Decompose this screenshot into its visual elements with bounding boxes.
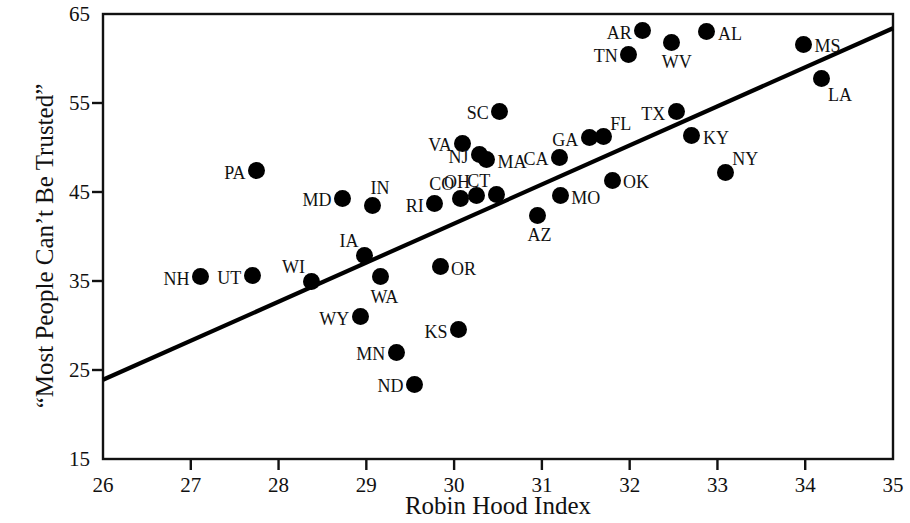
data-point-label: MD [303,191,332,209]
data-point-marker[interactable] [813,70,830,87]
data-point-label: AZ [528,226,552,244]
data-point-marker[interactable] [372,268,389,285]
data-point-marker[interactable] [364,197,381,214]
data-point-marker[interactable] [620,46,637,63]
data-point-marker[interactable] [356,247,373,264]
data-point-label: NY [732,150,758,168]
data-point-label: MS [814,37,840,55]
data-point-marker[interactable] [334,190,351,207]
data-point-label: AL [718,25,742,43]
data-point-label: OK [623,173,649,191]
data-point-marker[interactable] [406,376,423,393]
data-point-label: KS [424,323,447,341]
data-point-marker[interactable] [352,308,369,325]
data-point-label: OH [444,173,470,191]
data-point-label: TN [594,47,618,65]
data-point-label: UT [217,269,241,287]
scatter-chart-figure: 152535455565 26272829303132333435 NHUTPA… [0,0,910,523]
data-point-label: GA [552,131,578,149]
data-point-marker[interactable] [604,172,621,189]
data-point-label: TX [641,105,665,123]
data-point-marker[interactable] [432,258,449,275]
data-point-marker[interactable] [244,267,261,284]
data-point-marker[interactable] [488,186,505,203]
data-point-label: LA [828,86,852,104]
data-point-label: AR [607,24,632,42]
data-point-label: KY [703,129,729,147]
data-point-label: MA [498,153,527,171]
y-tick-label: 65 [40,4,90,25]
data-point-marker[interactable] [717,164,734,181]
data-point-marker[interactable] [551,149,568,166]
data-point-marker[interactable] [529,207,546,224]
data-point-label: MO [571,189,600,207]
data-point-label: IN [370,179,389,197]
data-point-marker[interactable] [452,190,469,207]
data-point-label: FL [610,115,631,133]
data-point-label: WI [282,258,305,276]
data-point-label: WY [319,310,349,328]
data-point-marker[interactable] [668,103,685,120]
y-axis-title: “Most People Can’t Be Trusted” [31,31,59,461]
data-point-marker[interactable] [491,103,508,120]
data-point-label: IA [340,232,359,250]
data-point-label: WA [370,288,398,306]
data-point-label: CT [467,172,490,190]
data-point-label: ND [378,377,404,395]
data-point-label: WV [662,53,692,71]
x-axis-title: Robin Hood Index [103,492,893,520]
trend-line-segment [103,28,893,380]
trend-line [103,28,893,380]
data-point-marker[interactable] [192,268,209,285]
data-point-label: PA [224,164,245,182]
x-axis-tick-marks [191,459,805,470]
y-axis-tick-marks [92,103,103,370]
data-point-label: CA [523,150,548,168]
data-point-label: NJ [449,148,469,166]
data-point-label: NH [163,270,189,288]
data-point-label: RI [406,197,424,215]
data-point-marker[interactable] [303,273,320,290]
data-point-label: OR [451,260,476,278]
data-point-marker[interactable] [552,187,569,204]
data-point-marker[interactable] [795,36,812,53]
data-point-label: MN [356,345,385,363]
data-point-marker[interactable] [388,344,405,361]
data-point-label: SC [467,104,489,122]
